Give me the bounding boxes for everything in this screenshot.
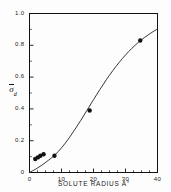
figure-container: 00.20.40.60.81.0 010203040 σd SOLUTE RAD… [0, 0, 171, 192]
y-axis-title: σd [1, 78, 25, 97]
data-point [52, 154, 56, 158]
y-tick-label: 0.4 [15, 105, 25, 111]
fitted-curve [30, 29, 158, 173]
y-tick-label: 0.8 [15, 41, 25, 47]
x-axis-title: SOLUTE RADIUS A° [29, 180, 159, 187]
x-axis-ticks [30, 169, 158, 173]
y-axis-subscript: d [14, 91, 17, 97]
data-point [87, 108, 91, 112]
data-point [138, 38, 142, 42]
y-axis-ticks [30, 14, 34, 173]
data-points [33, 38, 142, 161]
scatter-plot [0, 0, 171, 192]
data-point [41, 152, 45, 156]
plot-frame [30, 14, 158, 173]
y-tick-label: 0.2 [15, 137, 25, 143]
y-tick-label: 1.0 [15, 10, 25, 16]
y-tick-label: 0 [21, 169, 25, 175]
